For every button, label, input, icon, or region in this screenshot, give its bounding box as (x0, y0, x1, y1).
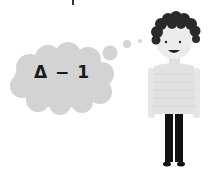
illustration-scene: Δ − 1 (0, 0, 212, 181)
person-icon (0, 0, 212, 181)
